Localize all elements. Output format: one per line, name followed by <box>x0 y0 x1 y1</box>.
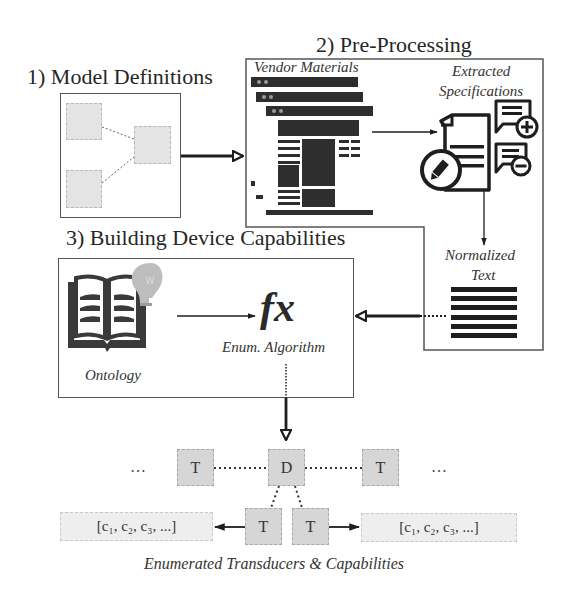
transducer-node-right: T <box>362 449 399 486</box>
comment-add-icon <box>496 101 537 137</box>
comment-remove-icon <box>496 144 530 175</box>
document-edit-icon <box>422 115 489 190</box>
model-connectors <box>102 127 134 183</box>
ellipsis-left: … <box>130 458 146 476</box>
device-node: D <box>268 449 305 486</box>
ontology-book-icon <box>68 276 146 352</box>
capabilities-list-left: [c₁, c₂, c₃, ...] <box>60 512 213 541</box>
transducer-node-bottom-left: T <box>245 508 282 545</box>
vendor-materials-icon <box>251 77 373 215</box>
transducer-node-bottom-right: T <box>292 508 329 545</box>
diagram-graphics <box>0 0 568 589</box>
transducer-node-left: T <box>177 449 214 486</box>
graph-caption: Enumerated Transducers & Capabilities <box>144 555 404 573</box>
ellipsis-right: … <box>431 458 447 476</box>
capabilities-list-right: [c₁, c₂, c₃, ...] <box>361 513 517 542</box>
normalized-text-icon <box>451 287 517 338</box>
